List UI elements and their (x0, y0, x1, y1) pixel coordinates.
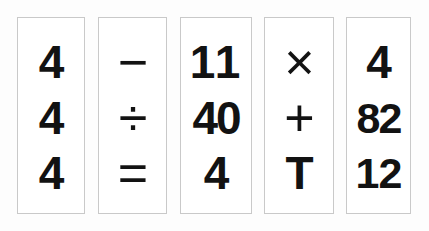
symbol-card-4[interactable]: × + T (264, 17, 334, 214)
symbol-card-3[interactable]: 11 40 4 (180, 17, 252, 214)
cell-5-1: 4 (347, 36, 410, 88)
cell-5-2: 82 (347, 92, 410, 144)
cell-4-1-multiply: × (265, 36, 333, 88)
cell-1-2: 4 (18, 92, 84, 144)
card-grid-canvas: 4 4 4 − ÷ = 11 40 4 × + T 4 82 12 (0, 0, 429, 231)
cell-3-1: 11 (181, 36, 251, 88)
cell-2-2-divide: ÷ (99, 92, 166, 144)
cell-3-3: 4 (181, 147, 251, 199)
cell-1-1: 4 (18, 36, 84, 88)
cell-2-1-minus: − (99, 36, 166, 88)
cell-4-2-plus: + (265, 92, 333, 144)
cell-3-2: 40 (181, 92, 251, 144)
symbol-card-5[interactable]: 4 82 12 (346, 17, 411, 214)
symbol-card-2[interactable]: − ÷ = (98, 17, 167, 214)
cell-2-3-equals: = (99, 147, 166, 199)
cell-4-3-letter-t: T (265, 147, 333, 199)
cell-1-3: 4 (18, 147, 84, 199)
cell-5-3: 12 (347, 147, 410, 199)
symbol-card-1[interactable]: 4 4 4 (17, 17, 85, 214)
